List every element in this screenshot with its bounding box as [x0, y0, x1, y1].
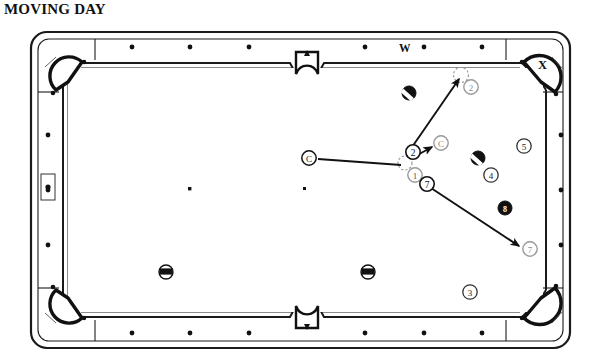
marker-3: 3 — [463, 285, 477, 299]
diamond-top-1 — [130, 45, 135, 50]
spot-left — [188, 187, 191, 190]
svg-text:C: C — [438, 139, 444, 149]
diamond-bottom-3 — [247, 331, 252, 336]
marker-4: 4 — [484, 168, 498, 182]
diamond-bottom-1 — [130, 331, 135, 336]
marker-1: 1 — [408, 168, 422, 182]
pocket-label-x: X — [538, 58, 547, 72]
svg-text:7: 7 — [528, 245, 533, 255]
diamond-bottom-2 — [188, 331, 193, 336]
diamond-left-3 — [46, 243, 51, 248]
billiards-table: W X — [0, 22, 600, 357]
table-svg: W X — [0, 22, 600, 357]
diamond-top-6 — [480, 45, 485, 50]
svg-text:C: C — [306, 154, 312, 164]
diamond-top-3 — [247, 45, 252, 50]
marker-cue-end: C — [434, 136, 448, 150]
striped-ball-bottom-mid — [361, 265, 375, 279]
page-title: MOVING DAY — [4, 1, 106, 18]
marker-7-start: 7 — [420, 177, 434, 191]
diamond-bottom-5 — [422, 331, 427, 336]
diamond-top-5 — [422, 45, 427, 50]
solid-ball-eight: 8 — [498, 201, 512, 215]
striped-ball-bottom-left — [159, 265, 173, 279]
diamond-top-2 — [188, 45, 193, 50]
rail-label-w: W — [399, 42, 411, 54]
diamond-top-4 — [363, 45, 368, 50]
spot-center — [303, 187, 306, 190]
marker-cue-start: C — [302, 151, 316, 165]
svg-text:4: 4 — [489, 171, 494, 181]
marker-2-target: 2 — [464, 80, 478, 94]
diamond-right-1 — [559, 133, 564, 138]
diamond-bottom-4 — [363, 331, 368, 336]
svg-text:7: 7 — [425, 180, 430, 190]
svg-text:1: 1 — [413, 171, 418, 181]
marker-2-contact: 2 — [406, 145, 420, 159]
diamond-bottom-6 — [480, 331, 485, 336]
diamond-right-2 — [559, 188, 564, 193]
diamond-right-3 — [559, 243, 564, 248]
svg-text:2: 2 — [411, 148, 416, 158]
marker-7-end: 7 — [523, 242, 537, 256]
svg-text:5: 5 — [522, 142, 527, 152]
svg-text:8: 8 — [503, 205, 507, 214]
marker-5: 5 — [517, 139, 531, 153]
svg-text:2: 2 — [469, 83, 474, 93]
diamond-left-1 — [46, 133, 51, 138]
svg-text:3: 3 — [468, 288, 473, 298]
diagram-page: MOVING DAY — [0, 0, 600, 357]
